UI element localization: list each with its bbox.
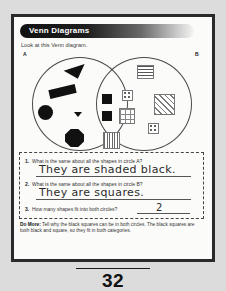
- diagonal-hatched-square-icon: [154, 94, 175, 115]
- question-2-number: 2.: [25, 181, 29, 187]
- answer-3-line[interactable]: [137, 213, 190, 214]
- black-square-2-icon: [102, 111, 112, 121]
- venn-diagram: A B: [18, 50, 208, 151]
- circle-b-label: B: [195, 51, 199, 57]
- questions-box: 1. What is the same about all the shapes…: [19, 152, 204, 219]
- question-1-number: 1.: [25, 158, 29, 164]
- black-circle-icon: [38, 105, 53, 120]
- question-3-text: How many shapes fit into both circles?: [32, 206, 117, 212]
- answer-1-line[interactable]: [36, 176, 191, 177]
- do-more-prompt: Tell why the black squares can be in bot…: [42, 222, 146, 227]
- scanned-worksheet-page: Venn Diagrams Look at this Venn diagram.…: [0, 0, 226, 291]
- horizontal-striped-square-icon: [137, 65, 154, 79]
- question-3-number: 3.: [25, 206, 29, 212]
- instruction-text: Look at this Venn diagram.: [21, 42, 87, 48]
- do-more-section: Do More: Tell why the black squares can …: [20, 222, 200, 235]
- grid-square-icon: [119, 108, 135, 124]
- dotted-square-small-1-icon: [122, 90, 133, 101]
- worksheet-body: Venn Diagrams Look at this Venn diagram.…: [14, 17, 212, 259]
- answer-1-value[interactable]: They are shaded black.: [39, 163, 176, 176]
- page-number: 32: [0, 270, 226, 291]
- black-triangle-small-icon: [74, 112, 82, 117]
- answer-3-value[interactable]: 2: [156, 202, 162, 213]
- page-frame: Venn Diagrams Look at this Venn diagram.…: [11, 14, 215, 262]
- worksheet-title-bar: Venn Diagrams: [20, 24, 194, 38]
- page-number-rule: [76, 268, 150, 269]
- dotted-square-small-2-icon: [148, 123, 159, 134]
- black-square-1-icon: [102, 94, 112, 104]
- vertical-striped-square-icon: [103, 132, 120, 149]
- circle-a-label: A: [23, 51, 27, 57]
- answer-2-line[interactable]: [36, 199, 191, 200]
- answer-2-value[interactable]: They are squares.: [39, 186, 144, 199]
- page-title: Venn Diagrams: [29, 26, 89, 35]
- do-more-label: Do More:: [20, 222, 41, 227]
